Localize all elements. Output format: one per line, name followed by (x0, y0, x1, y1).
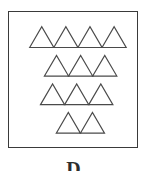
triangle-row (44, 55, 116, 76)
triangle-rows (30, 27, 126, 133)
triangle-shape (80, 113, 104, 134)
triangle-shape (30, 27, 54, 48)
figure-bounding-box (8, 11, 138, 148)
triangle-row (56, 113, 104, 134)
triangle-shape (41, 84, 65, 105)
figure-root: D (0, 0, 147, 171)
triangle-shape (65, 84, 89, 105)
triangle-shape (44, 55, 68, 76)
figure-caption-area: D (0, 150, 147, 171)
triangle-shape (78, 27, 102, 48)
triangle-shape (89, 84, 113, 105)
triangle-shape (93, 55, 117, 76)
triangle-row (41, 84, 113, 105)
figure-label: D (0, 159, 147, 171)
triangle-row (30, 27, 126, 48)
triangle-canvas (9, 12, 137, 147)
triangle-shape (54, 27, 78, 48)
triangle-shape (69, 55, 93, 76)
triangle-shape (102, 27, 126, 48)
triangle-shape (56, 113, 80, 134)
